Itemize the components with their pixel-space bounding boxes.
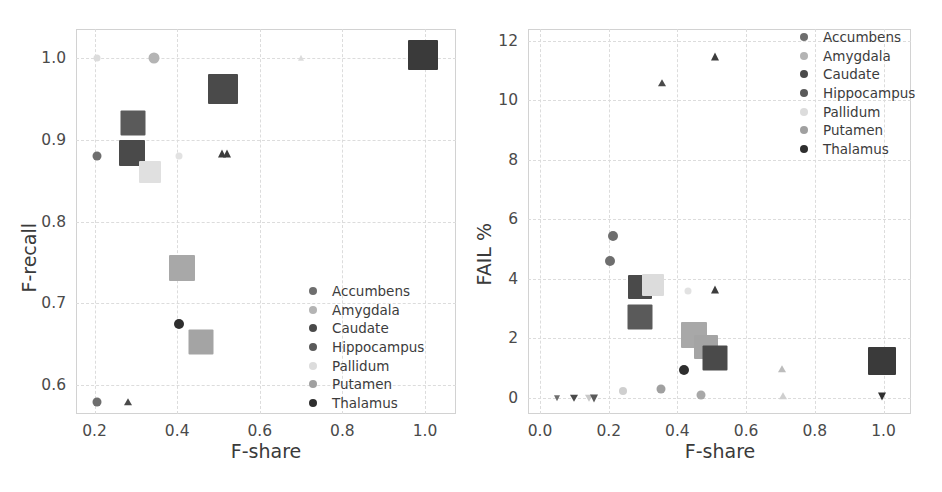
data-point-hippocampus <box>628 305 653 330</box>
y-tick-label: 0.7 <box>18 294 66 312</box>
data-point-caudate <box>570 394 578 401</box>
legend-item-label: Hippocampus <box>326 339 424 355</box>
legend-item-thalamus[interactable]: Thalamus <box>791 140 915 159</box>
gridline-vertical <box>609 29 610 414</box>
data-point-putamen <box>656 385 665 394</box>
gridline-horizontal <box>528 160 911 161</box>
legend-item-putamen[interactable]: Putamen <box>300 375 424 394</box>
data-point-thalamus <box>868 347 896 375</box>
legend-item-label: Amygdala <box>326 302 400 318</box>
gridline-vertical <box>260 29 261 414</box>
legend-item-label: Caudate <box>326 320 389 336</box>
data-point-pallidum <box>176 152 183 159</box>
legend-left: AccumbensAmygdalaCaudateHippocampusPalli… <box>300 282 424 412</box>
legend-item-putamen[interactable]: Putamen <box>791 121 915 140</box>
data-point-caudate <box>124 398 132 405</box>
data-point-thalamus <box>174 319 184 329</box>
legend-item-label: Amygdala <box>817 48 891 64</box>
data-point-thalamus <box>711 53 719 61</box>
legend-item-hippocampus[interactable]: Hippocampus <box>791 84 915 103</box>
gridline-horizontal <box>528 279 911 280</box>
legend-item-accumbens[interactable]: Accumbens <box>791 28 915 47</box>
legend-item-amygdala[interactable]: Amygdala <box>300 301 424 320</box>
legend-item-label: Pallidum <box>817 104 880 120</box>
legend-marker-icon <box>300 399 326 407</box>
legend-marker-icon <box>791 33 817 41</box>
data-point-hippocampus <box>120 111 145 136</box>
legend-item-label: Caudate <box>817 66 880 82</box>
legend-item-label: Accumbens <box>817 29 901 45</box>
data-point-putamen <box>697 391 706 400</box>
legend-item-label: Thalamus <box>326 395 398 411</box>
data-point-pallidum <box>93 54 100 61</box>
gridline-horizontal <box>528 338 911 339</box>
legend-item-amygdala[interactable]: Amygdala <box>791 47 915 66</box>
legend-item-label: Putamen <box>326 376 392 392</box>
figure-container: 0.60.70.80.91.00.20.40.60.81.0 F-share F… <box>0 0 942 492</box>
legend-marker-icon <box>300 380 326 388</box>
legend-marker-icon <box>300 343 326 351</box>
x-tick-label: 0.8 <box>330 422 355 440</box>
x-tick-label: 0.6 <box>734 422 759 440</box>
data-point-accumbens <box>554 395 560 401</box>
x-tick-label: 1.0 <box>871 422 896 440</box>
data-point-pallidum <box>139 161 161 183</box>
y-tick-label: 0.9 <box>18 131 66 149</box>
data-point-thalamus <box>223 150 231 158</box>
y-tick-label: 12 <box>470 32 518 50</box>
x-tick-label: 0.6 <box>247 422 272 440</box>
legend-item-label: Accumbens <box>326 283 410 299</box>
data-point-accumbens <box>605 256 615 266</box>
legend-item-caudate[interactable]: Caudate <box>791 65 915 84</box>
legend-marker-icon <box>791 52 817 60</box>
x-tick-label: 0.2 <box>596 422 621 440</box>
y-axis-title-left: F-recall <box>18 223 40 293</box>
x-axis-title-right: F-share <box>685 440 755 462</box>
data-point-caudate <box>658 79 666 86</box>
legend-item-label: Pallidum <box>326 358 389 374</box>
legend-marker-icon <box>300 306 326 314</box>
legend-item-label: Hippocampus <box>817 85 915 101</box>
data-point-accumbens <box>92 151 101 160</box>
legend-marker-icon <box>791 145 817 153</box>
y-tick-label: 2 <box>470 329 518 347</box>
data-point-pallidum <box>642 274 664 296</box>
x-tick-label: 0.4 <box>165 422 190 440</box>
legend-item-label: Putamen <box>817 122 883 138</box>
data-point-thalamus <box>878 393 886 401</box>
legend-item-label: Thalamus <box>817 141 889 157</box>
scatter-panel-f-recall: 0.60.70.80.91.00.20.40.60.81.0 F-share F… <box>0 0 471 492</box>
legend-right: AccumbensAmygdalaCaudateHippocampusPalli… <box>791 28 915 158</box>
data-point-putamen <box>189 329 214 354</box>
y-tick-label: 0.6 <box>18 376 66 394</box>
data-point-thalamus <box>711 286 719 294</box>
gridline-vertical <box>95 29 96 414</box>
data-point-caudate <box>208 74 238 104</box>
legend-item-caudate[interactable]: Caudate <box>300 319 424 338</box>
data-point-amygdala <box>779 392 787 399</box>
gridline-vertical <box>177 29 178 414</box>
y-tick-label: 8 <box>470 151 518 169</box>
y-tick-label: 0 <box>470 389 518 407</box>
legend-item-hippocampus[interactable]: Hippocampus <box>300 338 424 357</box>
x-tick-label: 0.0 <box>528 422 553 440</box>
legend-item-pallidum[interactable]: Pallidum <box>791 102 915 121</box>
y-tick-label: 10 <box>470 91 518 109</box>
data-point-accumbens <box>93 397 102 406</box>
data-point-putamen <box>778 366 786 373</box>
data-point-amygdala <box>619 387 627 395</box>
legend-marker-icon <box>791 70 817 78</box>
legend-marker-icon <box>300 362 326 370</box>
legend-item-pallidum[interactable]: Pallidum <box>300 356 424 375</box>
legend-marker-icon <box>300 324 326 332</box>
scatter-panel-fail-pct: 0246810120.00.20.40.60.81.0 F-share FAIL… <box>471 0 942 492</box>
data-point-hippocampus <box>590 394 598 402</box>
data-point-thalamus <box>679 365 689 375</box>
data-point-thalamus <box>408 40 438 70</box>
legend-marker-icon <box>791 126 817 134</box>
legend-item-thalamus[interactable]: Thalamus <box>300 394 424 413</box>
y-axis-title-right: FAIL % <box>473 223 495 285</box>
gridline-horizontal <box>76 58 456 59</box>
x-tick-label: 0.2 <box>82 422 107 440</box>
legend-item-accumbens[interactable]: Accumbens <box>300 282 424 301</box>
